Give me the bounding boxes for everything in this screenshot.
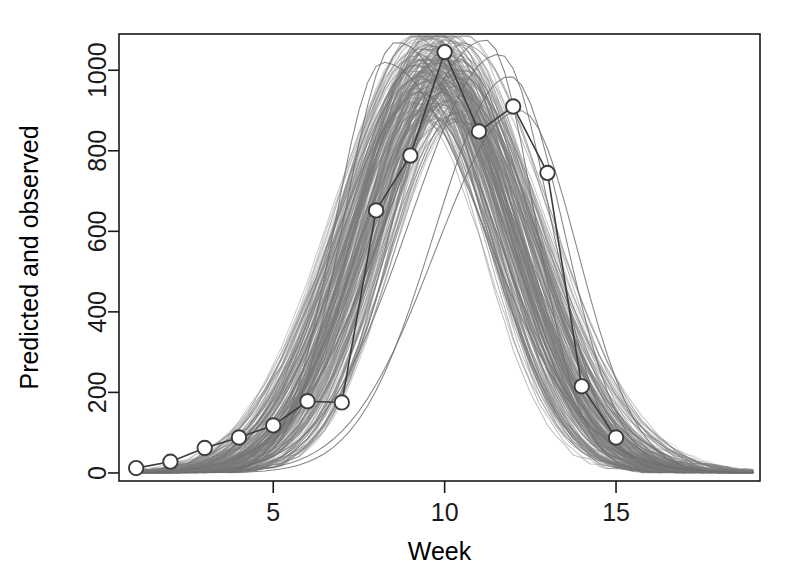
y-axis-title: Predicted and observed xyxy=(15,125,43,389)
observed-data-point xyxy=(437,45,451,59)
observed-data-point xyxy=(129,461,143,475)
y-tick-label: 1000 xyxy=(83,42,111,98)
x-tick-label: 5 xyxy=(266,498,280,526)
x-tick-label: 10 xyxy=(431,498,459,526)
observed-data-point xyxy=(575,379,589,393)
observed-data-point xyxy=(266,418,280,432)
observed-data-point xyxy=(198,441,212,455)
observed-data-point xyxy=(403,148,417,162)
observed-data-point xyxy=(472,124,486,138)
observed-data-point xyxy=(609,430,623,444)
y-tick-label: 600 xyxy=(83,210,111,252)
observed-data-point xyxy=(232,430,246,444)
chart-figure: 0200400600800100051015WeekPredicted and … xyxy=(0,0,796,584)
observed-data-point xyxy=(540,166,554,180)
x-tick-label: 15 xyxy=(602,498,630,526)
observed-data-point xyxy=(163,454,177,468)
observed-data-point xyxy=(369,203,383,217)
chart-canvas: 0200400600800100051015WeekPredicted and … xyxy=(0,0,796,584)
observed-data-point xyxy=(506,99,520,113)
observed-data-point xyxy=(335,395,349,409)
observed-data-point xyxy=(300,394,314,408)
y-tick-label: 400 xyxy=(83,291,111,333)
y-tick-label: 0 xyxy=(83,466,111,480)
y-tick-label: 200 xyxy=(83,372,111,414)
x-axis-title: Week xyxy=(408,537,472,565)
y-tick-label: 800 xyxy=(83,130,111,172)
